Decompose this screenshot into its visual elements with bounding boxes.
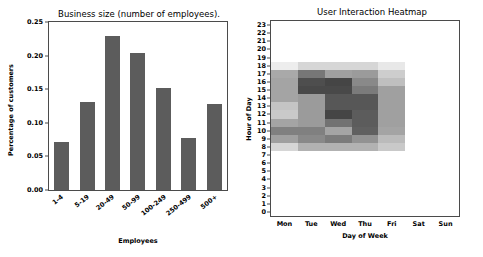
heatmap-cell bbox=[352, 29, 379, 37]
bar-chart-y-tick-label: 0.10 bbox=[27, 119, 43, 127]
heatmap-cell bbox=[271, 29, 298, 37]
heatmap-cell bbox=[325, 200, 352, 208]
heatmap-cell bbox=[271, 184, 298, 192]
heatmap-y-tick-label: 13 bbox=[257, 102, 266, 110]
bar-series bbox=[49, 22, 227, 190]
heatmap-cell bbox=[298, 135, 325, 143]
heatmap-cell bbox=[325, 94, 352, 102]
heatmap-cell bbox=[432, 175, 459, 183]
heatmap-cell bbox=[378, 29, 405, 37]
heatmap-cell bbox=[432, 110, 459, 118]
heatmap-cell bbox=[325, 192, 352, 200]
heatmap-cell bbox=[405, 78, 432, 86]
heatmap-cell bbox=[298, 86, 325, 94]
heatmap-cell bbox=[325, 175, 352, 183]
heatmap-cell bbox=[298, 29, 325, 37]
heatmap-cell bbox=[432, 94, 459, 102]
heatmap-cell bbox=[405, 167, 432, 175]
heatmap-cell bbox=[352, 86, 379, 94]
heatmap-cell bbox=[298, 21, 325, 29]
heatmap-cell bbox=[432, 135, 459, 143]
heatmap-cell bbox=[432, 192, 459, 200]
heatmap-panel: User Interaction Heatmap 232221201918171… bbox=[242, 0, 483, 257]
heatmap-cell bbox=[271, 200, 298, 208]
heatmap-cell bbox=[298, 37, 325, 45]
heatmap-cell bbox=[271, 143, 298, 151]
bar bbox=[130, 53, 145, 190]
heatmap-cell bbox=[298, 184, 325, 192]
heatmap-x-tick-label: Sat bbox=[413, 220, 425, 228]
bar-chart-x-axis: 1-45-1920-4950-99100-249250-499500+ bbox=[48, 193, 228, 233]
heatmap-cell bbox=[432, 102, 459, 110]
heatmap-cell bbox=[352, 102, 379, 110]
heatmap-cell bbox=[271, 167, 298, 175]
heatmap-cell bbox=[352, 94, 379, 102]
heatmap-cell bbox=[378, 110, 405, 118]
heatmap-cell bbox=[271, 159, 298, 167]
heatmap-cell bbox=[432, 159, 459, 167]
heatmap-cell bbox=[298, 151, 325, 159]
heatmap-cell bbox=[325, 29, 352, 37]
heatmap-cell bbox=[405, 175, 432, 183]
heatmap-cell bbox=[352, 167, 379, 175]
heatmap-cell bbox=[405, 135, 432, 143]
heatmap-cell bbox=[298, 119, 325, 127]
heatmap-cell bbox=[405, 86, 432, 94]
bar bbox=[80, 102, 95, 190]
bar bbox=[54, 142, 69, 190]
heatmap-y-tick-label: 19 bbox=[257, 54, 266, 62]
heatmap-x-tick-label: Fri bbox=[387, 220, 396, 228]
heatmap-y-axis-label: Hour of Day bbox=[245, 84, 253, 154]
heatmap-x-tick-label: Sun bbox=[439, 220, 453, 228]
heatmap-cell bbox=[325, 110, 352, 118]
heatmap-cell bbox=[325, 70, 352, 78]
heatmap-cell bbox=[352, 62, 379, 70]
heatmap-cell bbox=[271, 62, 298, 70]
heatmap-y-tick-label: 17 bbox=[257, 70, 266, 78]
heatmap-y-tick-label: 7 bbox=[261, 151, 266, 159]
heatmap-cell bbox=[298, 54, 325, 62]
heatmap-cell bbox=[432, 70, 459, 78]
heatmap-y-tick-label: 3 bbox=[261, 184, 266, 192]
heatmap-cell bbox=[271, 175, 298, 183]
heatmap-y-tick-label: 5 bbox=[261, 167, 266, 175]
heatmap-cell bbox=[378, 159, 405, 167]
heatmap-y-tick-label: 2 bbox=[261, 192, 266, 200]
heatmap-cell bbox=[298, 62, 325, 70]
heatmap-cell bbox=[432, 37, 459, 45]
heatmap-cell bbox=[325, 62, 352, 70]
heatmap-cell bbox=[271, 70, 298, 78]
heatmap-cell bbox=[271, 110, 298, 118]
heatmap-cell bbox=[432, 208, 459, 216]
heatmap-cell bbox=[378, 119, 405, 127]
heatmap-y-tick-label: 6 bbox=[261, 159, 266, 167]
heatmap-cell bbox=[325, 78, 352, 86]
heatmap-y-tick-label: 10 bbox=[257, 127, 266, 135]
heatmap-cell bbox=[405, 110, 432, 118]
heatmap-cell bbox=[271, 135, 298, 143]
heatmap-cell bbox=[378, 127, 405, 135]
heatmap-cell bbox=[405, 45, 432, 53]
heatmap-cell bbox=[405, 192, 432, 200]
heatmap-x-axis: MonTueWedThuFriSatSun bbox=[270, 220, 460, 232]
heatmap-cell bbox=[432, 45, 459, 53]
heatmap-cell bbox=[352, 78, 379, 86]
heatmap-cell bbox=[432, 78, 459, 86]
heatmap-cell bbox=[378, 135, 405, 143]
heatmap-cell bbox=[378, 184, 405, 192]
heatmap-cell bbox=[432, 167, 459, 175]
heatmap-cell bbox=[405, 102, 432, 110]
heatmap-cell bbox=[405, 37, 432, 45]
heatmap-cell bbox=[271, 208, 298, 216]
heatmap-cell bbox=[405, 200, 432, 208]
heatmap-cell bbox=[405, 62, 432, 70]
heatmap-cell bbox=[298, 143, 325, 151]
heatmap-cell bbox=[378, 200, 405, 208]
bar-chart-y-tick-label: 0.00 bbox=[27, 186, 43, 194]
heatmap-cell bbox=[432, 127, 459, 135]
heatmap-cell bbox=[325, 143, 352, 151]
heatmap-cell bbox=[352, 45, 379, 53]
heatmap-title: User Interaction Heatmap bbox=[262, 7, 482, 17]
bar-chart-x-axis-label: Employees bbox=[48, 237, 228, 245]
heatmap-cell bbox=[378, 54, 405, 62]
